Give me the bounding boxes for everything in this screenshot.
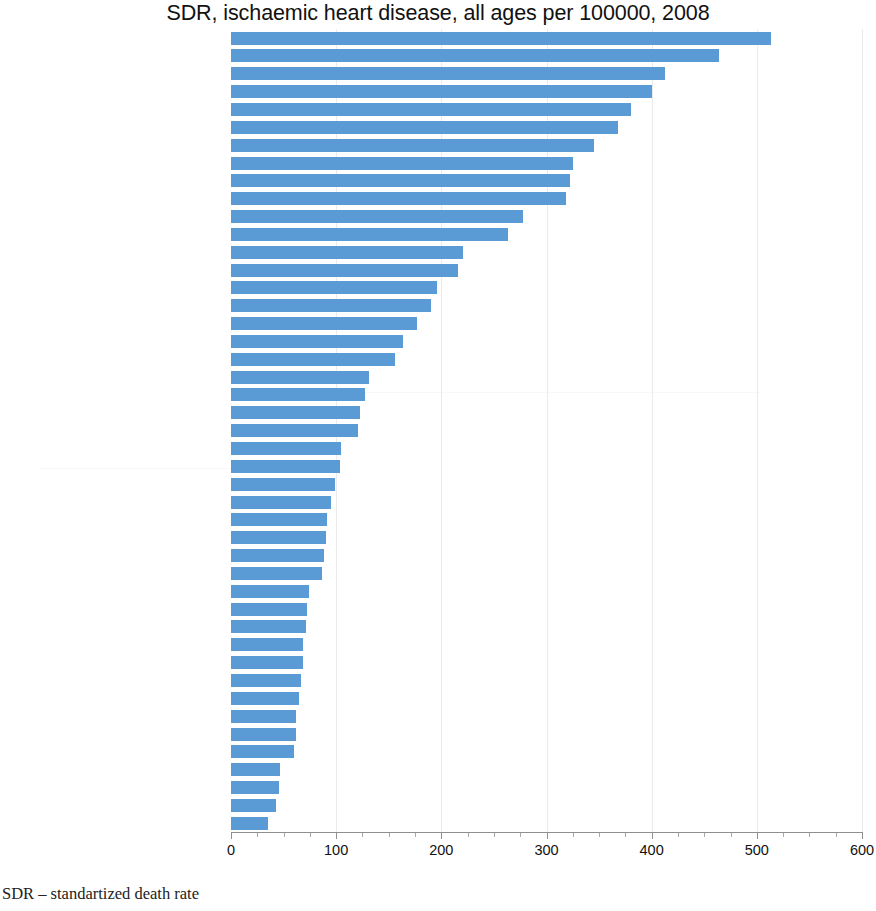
bar[interactable] bbox=[231, 638, 303, 651]
bar[interactable] bbox=[231, 781, 279, 794]
bar[interactable] bbox=[231, 85, 652, 98]
bar[interactable] bbox=[231, 388, 365, 401]
bar[interactable] bbox=[231, 692, 299, 705]
bar[interactable] bbox=[231, 549, 324, 562]
bar-row[interactable] bbox=[231, 814, 862, 832]
bar-row[interactable] bbox=[231, 600, 862, 618]
bar-row[interactable] bbox=[231, 654, 862, 672]
bar-row[interactable] bbox=[231, 47, 862, 65]
bar-row[interactable] bbox=[231, 279, 862, 297]
bar-row[interactable] bbox=[231, 439, 862, 457]
bar[interactable] bbox=[231, 49, 719, 62]
bar[interactable] bbox=[231, 406, 360, 419]
bar-row[interactable] bbox=[231, 368, 862, 386]
x-axis-minor-tick bbox=[836, 833, 837, 837]
bar-row[interactable] bbox=[231, 65, 862, 83]
x-axis-minor-tick bbox=[573, 833, 574, 837]
bar[interactable] bbox=[231, 32, 771, 45]
x-axis-minor-tick bbox=[599, 833, 600, 837]
bar[interactable] bbox=[231, 246, 463, 259]
bar[interactable] bbox=[231, 496, 331, 509]
bar[interactable] bbox=[231, 174, 570, 187]
bar[interactable] bbox=[231, 210, 523, 223]
bar-row[interactable] bbox=[231, 796, 862, 814]
bar[interactable] bbox=[231, 192, 566, 205]
bar-row[interactable] bbox=[231, 475, 862, 493]
bar[interactable] bbox=[231, 603, 307, 616]
bar-row[interactable] bbox=[231, 100, 862, 118]
bar[interactable] bbox=[231, 460, 340, 473]
bar[interactable] bbox=[231, 281, 437, 294]
bar-row[interactable] bbox=[231, 761, 862, 779]
bar[interactable] bbox=[231, 656, 303, 669]
bar[interactable] bbox=[231, 799, 276, 812]
bar[interactable] bbox=[231, 228, 508, 241]
bar-row[interactable] bbox=[231, 350, 862, 368]
bar-row[interactable] bbox=[231, 190, 862, 208]
bar[interactable] bbox=[231, 442, 341, 455]
bar-row[interactable] bbox=[231, 386, 862, 404]
bar-row[interactable] bbox=[231, 778, 862, 796]
bar-row[interactable] bbox=[231, 243, 862, 261]
bar[interactable] bbox=[231, 710, 296, 723]
bar-row[interactable] bbox=[231, 404, 862, 422]
bar[interactable] bbox=[231, 567, 322, 580]
bar-row[interactable] bbox=[231, 546, 862, 564]
bar-row[interactable] bbox=[231, 136, 862, 154]
bar[interactable] bbox=[231, 478, 335, 491]
bar[interactable] bbox=[231, 139, 594, 152]
bar-row[interactable] bbox=[231, 564, 862, 582]
bar[interactable] bbox=[231, 353, 395, 366]
bar-row[interactable] bbox=[231, 743, 862, 761]
bar-row[interactable] bbox=[231, 671, 862, 689]
bar-row[interactable] bbox=[231, 315, 862, 333]
chart-figure: SDR, ischaemic heart disease, all ages p… bbox=[0, 0, 876, 911]
bar-row[interactable] bbox=[231, 207, 862, 225]
bar[interactable] bbox=[231, 299, 431, 312]
bar[interactable] bbox=[231, 513, 327, 526]
bar-row[interactable] bbox=[231, 172, 862, 190]
bar-row[interactable] bbox=[231, 154, 862, 172]
x-axis-major-tick bbox=[862, 833, 863, 839]
bar-row[interactable] bbox=[231, 297, 862, 315]
bar-row[interactable] bbox=[231, 332, 862, 350]
bar[interactable] bbox=[231, 335, 403, 348]
bar-row[interactable] bbox=[231, 725, 862, 743]
bar-row[interactable] bbox=[231, 582, 862, 600]
bar[interactable] bbox=[231, 745, 294, 758]
bar[interactable] bbox=[231, 157, 573, 170]
bar[interactable] bbox=[231, 585, 309, 598]
bar[interactable] bbox=[231, 620, 306, 633]
bar-row[interactable] bbox=[231, 457, 862, 475]
bar-row[interactable] bbox=[231, 529, 862, 547]
x-axis-minor-tick bbox=[731, 833, 732, 837]
bar[interactable] bbox=[231, 67, 665, 80]
bar[interactable] bbox=[231, 728, 296, 741]
bar[interactable] bbox=[231, 103, 631, 116]
bar-row[interactable] bbox=[231, 618, 862, 636]
bar-row[interactable] bbox=[231, 636, 862, 654]
bar[interactable] bbox=[231, 371, 369, 384]
bar-row[interactable] bbox=[231, 511, 862, 529]
bar[interactable] bbox=[231, 264, 458, 277]
bar-row[interactable] bbox=[231, 29, 862, 47]
bar-row[interactable] bbox=[231, 707, 862, 725]
x-axis-major-tick bbox=[652, 833, 653, 839]
bar[interactable] bbox=[231, 817, 268, 830]
bar-row[interactable] bbox=[231, 83, 862, 101]
bar-row[interactable] bbox=[231, 689, 862, 707]
bar-row[interactable] bbox=[231, 118, 862, 136]
bar[interactable] bbox=[231, 531, 326, 544]
bar[interactable] bbox=[231, 674, 301, 687]
x-axis-major-tick bbox=[441, 833, 442, 839]
bar[interactable] bbox=[231, 763, 280, 776]
bar-row[interactable] bbox=[231, 493, 862, 511]
bar[interactable] bbox=[231, 424, 358, 437]
bar-row[interactable] bbox=[231, 261, 862, 279]
bar[interactable] bbox=[231, 121, 618, 134]
bar-row[interactable] bbox=[231, 422, 862, 440]
bar[interactable] bbox=[231, 317, 417, 330]
x-axis-minor-tick bbox=[783, 833, 784, 837]
x-axis-major-tick bbox=[547, 833, 548, 839]
bar-row[interactable] bbox=[231, 225, 862, 243]
